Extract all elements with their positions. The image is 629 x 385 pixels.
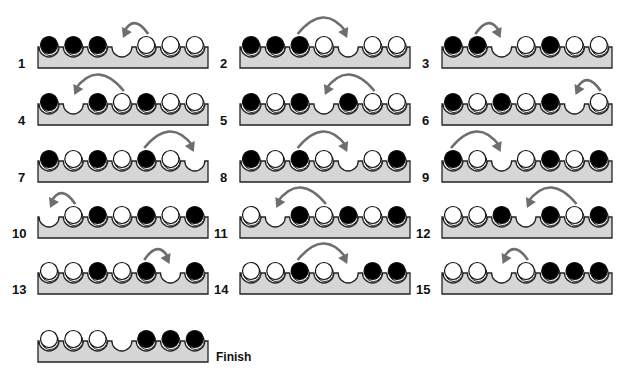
black-peg bbox=[388, 263, 405, 280]
white-peg bbox=[65, 263, 82, 280]
board bbox=[38, 341, 208, 362]
black-peg bbox=[89, 37, 106, 54]
board bbox=[442, 217, 612, 238]
black-peg bbox=[138, 263, 155, 280]
white-peg bbox=[243, 207, 260, 224]
arrow-left-icon bbox=[277, 187, 326, 204]
black-peg bbox=[590, 151, 607, 168]
black-peg bbox=[243, 94, 260, 111]
peg-board bbox=[238, 72, 412, 132]
black-peg bbox=[291, 207, 308, 224]
white-peg bbox=[315, 263, 332, 280]
arrow-left-icon bbox=[528, 187, 577, 204]
white-peg bbox=[517, 94, 534, 111]
white-peg bbox=[162, 151, 179, 168]
white-peg bbox=[162, 94, 179, 111]
black-peg bbox=[41, 37, 58, 54]
step-number: 2 bbox=[220, 56, 227, 71]
arrow-right-icon bbox=[451, 131, 500, 148]
white-peg bbox=[388, 37, 405, 54]
black-peg bbox=[138, 151, 155, 168]
white-peg bbox=[445, 207, 462, 224]
white-peg bbox=[364, 151, 381, 168]
white-peg bbox=[469, 94, 486, 111]
arrow-right-icon bbox=[298, 17, 347, 34]
black-peg bbox=[138, 94, 155, 111]
white-peg bbox=[89, 331, 106, 348]
step-number: 11 bbox=[214, 226, 228, 241]
white-peg bbox=[590, 37, 607, 54]
white-peg bbox=[566, 207, 583, 224]
peg-board bbox=[36, 309, 210, 369]
peg-board bbox=[238, 129, 412, 189]
white-peg bbox=[315, 37, 332, 54]
black-peg bbox=[542, 263, 559, 280]
white-peg bbox=[517, 263, 534, 280]
peg-board bbox=[36, 15, 210, 75]
white-peg bbox=[113, 151, 130, 168]
black-peg bbox=[388, 151, 405, 168]
black-peg bbox=[445, 151, 462, 168]
peg-board bbox=[238, 185, 412, 245]
arrow-left-icon bbox=[326, 74, 375, 91]
white-peg bbox=[469, 207, 486, 224]
black-peg bbox=[41, 94, 58, 111]
step-number: 4 bbox=[18, 113, 25, 128]
black-peg bbox=[138, 207, 155, 224]
step-number: 15 bbox=[416, 282, 430, 297]
white-peg bbox=[41, 331, 58, 348]
black-peg bbox=[340, 207, 357, 224]
black-peg bbox=[41, 151, 58, 168]
finish-label: Finish bbox=[216, 350, 251, 364]
white-peg bbox=[138, 37, 155, 54]
step-number: 8 bbox=[220, 170, 227, 185]
black-peg bbox=[364, 263, 381, 280]
white-peg bbox=[162, 207, 179, 224]
black-peg bbox=[162, 331, 179, 348]
step-number: 10 bbox=[12, 226, 26, 241]
black-peg bbox=[138, 331, 155, 348]
black-peg bbox=[243, 151, 260, 168]
white-peg bbox=[315, 151, 332, 168]
white-peg bbox=[65, 331, 82, 348]
black-peg bbox=[590, 263, 607, 280]
white-peg bbox=[566, 37, 583, 54]
step-number: 14 bbox=[214, 282, 228, 297]
black-peg bbox=[89, 151, 106, 168]
black-peg bbox=[445, 37, 462, 54]
white-peg bbox=[113, 94, 130, 111]
step-number: 1 bbox=[18, 56, 25, 71]
white-peg bbox=[41, 263, 58, 280]
black-peg bbox=[186, 331, 203, 348]
black-peg bbox=[267, 37, 284, 54]
peg-board bbox=[36, 72, 210, 132]
black-peg bbox=[291, 37, 308, 54]
step-number: 5 bbox=[220, 113, 227, 128]
step-number: 12 bbox=[416, 226, 430, 241]
white-peg bbox=[65, 151, 82, 168]
black-peg bbox=[590, 207, 607, 224]
arrow-right-icon bbox=[298, 131, 347, 148]
black-peg bbox=[542, 94, 559, 111]
peg-board bbox=[238, 15, 412, 75]
board bbox=[38, 47, 208, 68]
black-peg bbox=[291, 263, 308, 280]
white-peg bbox=[566, 151, 583, 168]
black-peg bbox=[542, 151, 559, 168]
white-peg bbox=[113, 207, 130, 224]
peg-board bbox=[440, 241, 614, 301]
black-peg bbox=[243, 37, 260, 54]
white-peg bbox=[364, 37, 381, 54]
white-peg bbox=[243, 263, 260, 280]
black-peg bbox=[89, 207, 106, 224]
black-peg bbox=[340, 94, 357, 111]
step-number: 7 bbox=[18, 170, 25, 185]
arrow-left-icon bbox=[75, 74, 124, 91]
black-peg bbox=[291, 94, 308, 111]
white-peg bbox=[267, 151, 284, 168]
black-peg bbox=[493, 94, 510, 111]
black-peg bbox=[89, 263, 106, 280]
step-number: 13 bbox=[12, 282, 26, 297]
peg-board bbox=[440, 185, 614, 245]
white-peg bbox=[364, 207, 381, 224]
